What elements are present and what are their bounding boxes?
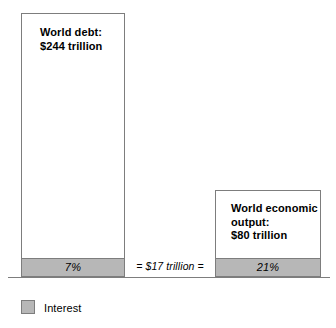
bar-world-debt: World debt: $244 trillion [21, 13, 125, 277]
interest-segment-world-debt: 7% [21, 258, 125, 277]
bar-world-economic-output-label: World economic output: $80 trillion [231, 202, 318, 243]
interest-percent-world-economic-output: 21% [257, 261, 280, 273]
interest-segment-world-economic-output: 21% [215, 258, 321, 277]
bar-world-debt-label: World debt: $244 trillion [40, 26, 102, 53]
legend-swatch-interest-icon [21, 300, 35, 314]
interest-percent-world-debt: 7% [65, 261, 81, 273]
legend: Interest [21, 300, 82, 314]
legend-label-interest: Interest [44, 302, 82, 314]
baseline-axis [8, 277, 330, 278]
connector-annotation: = $17 trillion = [125, 260, 215, 272]
bar-chart: World debt: $244 trillion World economic… [0, 0, 336, 328]
